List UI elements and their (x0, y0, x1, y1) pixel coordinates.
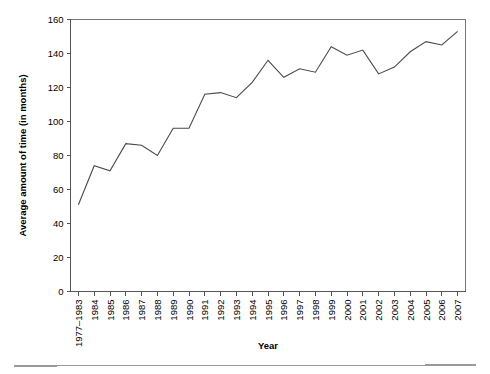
y-axis-title: Average amount of time (in months) (17, 74, 28, 236)
y-tick-label: 100 (48, 116, 64, 127)
x-tick-label: 1994 (247, 300, 258, 321)
y-tick-label: 20 (53, 252, 64, 263)
x-tick-label: 1991 (199, 300, 210, 321)
y-tick-label: 40 (53, 218, 64, 229)
y-tick-label: 120 (48, 82, 64, 93)
data-series-line (78, 31, 457, 204)
x-tick-label: 1992 (215, 300, 226, 321)
x-axis-title: Year (258, 340, 278, 351)
series-path (78, 31, 457, 204)
chart-figure: 020406080100120140160 1977–1983198419851… (0, 0, 490, 374)
y-tick-label: 60 (53, 184, 64, 195)
line-chart: 020406080100120140160 1977–1983198419851… (0, 0, 490, 374)
x-tick-label: 1993 (231, 300, 242, 321)
x-tick-label: 1987 (136, 300, 147, 321)
y-axis-ticks: 020406080100120140160 (48, 14, 71, 297)
x-tick-label: 1996 (278, 300, 289, 321)
y-tick-label: 0 (58, 286, 63, 297)
y-tick-label: 140 (48, 48, 64, 59)
x-tick-label: 2000 (342, 300, 353, 321)
x-tick-label: 1997 (294, 300, 305, 321)
x-tick-label: 2007 (452, 300, 463, 321)
y-tick-label: 160 (48, 14, 64, 25)
x-tick-label: 1989 (168, 300, 179, 321)
x-tick-label: 1986 (120, 300, 131, 321)
x-axis-ticks: 1977–19831984198519861987198819891990199… (73, 292, 463, 348)
x-tick-label: 1988 (152, 300, 163, 321)
x-tick-label: 2004 (405, 300, 416, 321)
x-tick-label: 2002 (373, 300, 384, 321)
bottom-divider (14, 365, 476, 366)
x-tick-label: 1977–1983 (73, 300, 84, 348)
x-tick-label: 1999 (326, 300, 337, 321)
x-tick-label: 2001 (357, 300, 368, 321)
x-tick-label: 1985 (105, 300, 116, 321)
x-tick-label: 1984 (89, 300, 100, 321)
footer-divider (14, 365, 476, 366)
x-tick-label: 1998 (310, 300, 321, 321)
x-tick-label: 1995 (263, 300, 274, 321)
x-tick-label: 2003 (389, 300, 400, 321)
x-tick-label: 1990 (184, 300, 195, 321)
y-tick-label: 80 (53, 150, 64, 161)
x-tick-label: 2005 (421, 300, 432, 321)
x-tick-label: 2006 (436, 300, 447, 321)
